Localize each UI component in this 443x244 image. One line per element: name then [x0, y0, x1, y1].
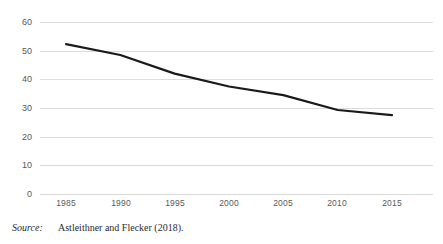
- line-chart: 60 50 40 30 20 10 0 1985 1990 1995 2000 …: [0, 0, 443, 212]
- x-tick-label: 2010: [327, 198, 347, 208]
- series-layer: [0, 0, 443, 212]
- x-axis-labels: 1985 1990 1995 2000 2005 2010 2015: [0, 198, 443, 212]
- figure-container: 60 50 40 30 20 10 0 1985 1990 1995 2000 …: [0, 0, 443, 244]
- x-tick-label: 1990: [111, 198, 131, 208]
- x-tick-label: 2005: [273, 198, 293, 208]
- x-tick-label: 2015: [382, 198, 402, 208]
- x-tick-label: 2000: [219, 198, 239, 208]
- source-note: Source:Astleithner and Flecker (2018).: [12, 221, 432, 237]
- series-line-path: [66, 44, 392, 115]
- source-label: Source:: [12, 221, 58, 234]
- source-citation: Astleithner and Flecker (2018).: [58, 221, 184, 234]
- x-tick-label: 1995: [165, 198, 185, 208]
- x-tick-label: 1985: [56, 198, 76, 208]
